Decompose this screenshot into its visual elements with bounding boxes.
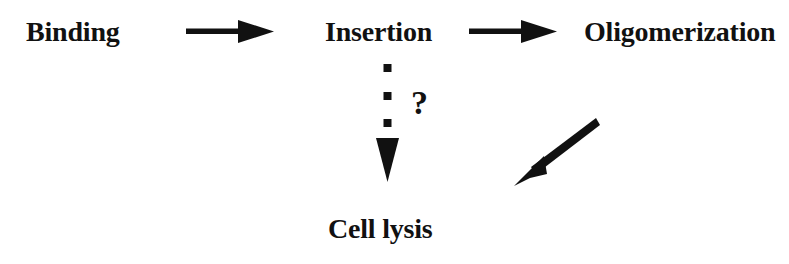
arrow-insertion-to-oligomerization: [469, 18, 559, 46]
node-label-oligomerization: Oligomerization: [584, 18, 775, 46]
node-label-cell-lysis: Cell lysis: [328, 215, 433, 243]
arrow-binding-to-insertion: [186, 18, 276, 46]
diagram-canvas: Binding Insertion Oligomerization ? Cell…: [0, 0, 789, 264]
dotted-arrow-insertion-to-cell-lysis: [368, 60, 408, 185]
uncertainty-question-mark: ?: [411, 86, 428, 120]
arrow-oligomerization-to-cell-lysis: [508, 112, 608, 192]
node-label-insertion: Insertion: [325, 18, 432, 46]
node-label-binding: Binding: [26, 18, 120, 46]
